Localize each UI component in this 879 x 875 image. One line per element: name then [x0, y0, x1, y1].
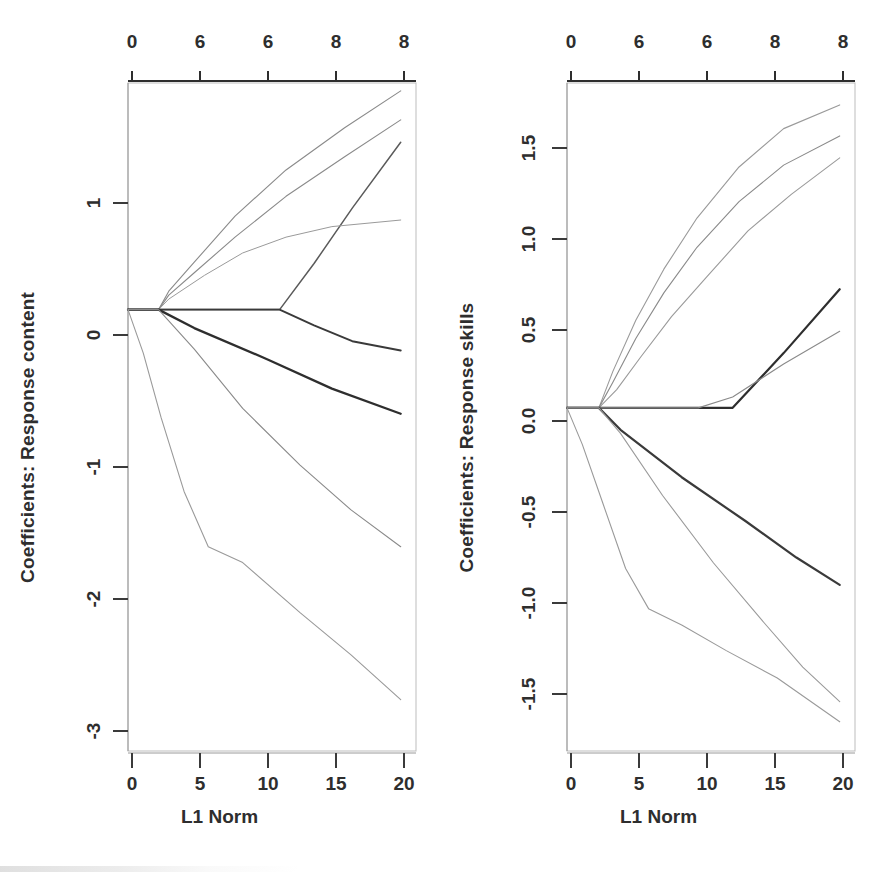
right-x-axis-title: L1 Norm [439, 806, 878, 828]
right-y-axis-title: Coefficients: Response skills [447, 0, 487, 875]
coefficient-path-line [567, 105, 840, 408]
left-x-axis-title: L1 Norm [0, 806, 439, 828]
coefficient-path-line [567, 136, 840, 408]
right-y-tick-1: 1.0 [518, 226, 540, 252]
left-top-tick-3: 8 [331, 31, 342, 53]
left-y-tick-3: -2 [83, 591, 105, 608]
right-top-tick-2: 6 [702, 31, 713, 53]
right-x-tick-1: 5 [634, 773, 645, 795]
right-y-axis-title-wrap: Coefficients: Response skills [447, 0, 487, 875]
right-y-tick-4: -0.5 [518, 496, 540, 529]
right-y-tick-5: -1.0 [518, 587, 540, 620]
coefficient-path-line [567, 158, 840, 408]
right-x-tick-2: 10 [696, 773, 717, 795]
right-top-tick-1: 6 [634, 31, 645, 53]
coefficient-path-line [128, 142, 401, 309]
coefficient-path-line [128, 120, 401, 310]
panel-response-skills: 0 6 6 8 8 0 5 10 15 20 1.5 1.0 0.5 0.0 -… [439, 0, 878, 875]
panel-response-content: 0 6 6 8 8 0 5 10 15 20 1 0 -1 -2 -3 Coef… [0, 0, 439, 875]
right-plot-series [567, 105, 840, 722]
coefficient-path-line [128, 310, 401, 547]
left-x-tick-4: 20 [393, 773, 414, 795]
left-top-tick-1: 6 [195, 31, 206, 53]
coefficient-path-line [567, 331, 840, 408]
right-y-tick-2: 0.5 [518, 317, 540, 343]
right-x-tick-0: 0 [566, 773, 577, 795]
coefficient-path-line [567, 289, 840, 408]
right-y-tick-3: 0.0 [518, 408, 540, 434]
coefficient-path-line [567, 408, 840, 702]
left-x-tick-2: 10 [257, 773, 278, 795]
right-x-tick-3: 15 [764, 773, 785, 795]
right-plot-canvas [439, 0, 878, 875]
left-x-tick-1: 5 [195, 773, 206, 795]
right-top-tick-3: 8 [770, 31, 781, 53]
right-y-tick-0: 1.5 [518, 135, 540, 161]
page-scan-artifact [0, 866, 300, 872]
right-y-tick-6: -1.5 [518, 678, 540, 711]
left-x-tick-0: 0 [127, 773, 138, 795]
coefficient-path-line [128, 310, 401, 700]
left-plot-axes [128, 81, 416, 753]
left-top-tick-0: 0 [127, 31, 138, 53]
left-y-tick-0: 1 [83, 198, 105, 209]
left-y-axis-title: Coefficients: Response content [8, 0, 48, 875]
left-y-tick-1: 0 [83, 330, 105, 341]
left-plot-series [128, 91, 401, 700]
coefficient-path-line [128, 220, 401, 310]
left-x-tick-3: 15 [325, 773, 346, 795]
coefficient-path-line [128, 310, 401, 414]
coefficient-path-line [128, 91, 401, 310]
left-top-tick-2: 6 [263, 31, 274, 53]
lasso-coefficient-paths-figure: 0 6 6 8 8 0 5 10 15 20 1 0 -1 -2 -3 Coef… [0, 0, 879, 875]
right-x-tick-4: 20 [832, 773, 853, 795]
right-plot-axes [567, 81, 855, 753]
right-top-tick-0: 0 [566, 31, 577, 53]
right-top-tick-4: 8 [838, 31, 849, 53]
coefficient-path-line [567, 408, 840, 722]
left-y-tick-4: -3 [83, 723, 105, 740]
left-y-tick-2: -1 [83, 459, 105, 476]
left-plot-canvas [0, 0, 439, 875]
coefficient-path-line [567, 408, 840, 585]
left-top-tick-4: 8 [399, 31, 410, 53]
left-y-axis-title-wrap: Coefficients: Response content [8, 0, 48, 875]
